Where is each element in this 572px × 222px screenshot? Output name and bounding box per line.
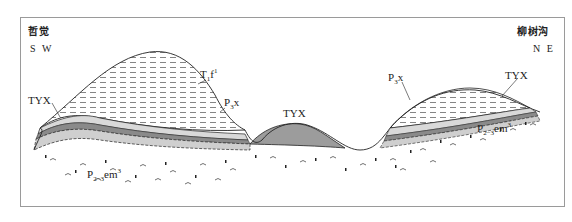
p3x-left-label: P3x (224, 97, 239, 111)
tyx-left-label: TYX (28, 95, 51, 106)
leader-p3x-right (402, 82, 410, 100)
p3x-right-label: P3x (388, 72, 403, 86)
p23em3-right-label: P2−3em3 (477, 122, 511, 137)
p23em3-left-sub: 2−3 (93, 175, 104, 183)
t1f1-label: T1f1 (200, 68, 217, 83)
left-place-label: 哲觉 (28, 27, 49, 37)
p23em3-right-sub: 2−3 (483, 129, 494, 137)
t1f1-sup: 1 (214, 67, 218, 75)
p23em3-left-sup: 3 (118, 167, 122, 175)
left-direction-label: S W (30, 44, 53, 54)
p23em3-left-label: P2−3em3 (87, 168, 121, 183)
tyx-middle-label: TYX (283, 108, 306, 119)
p23em3-right-sup: 3 (508, 121, 512, 129)
right-place-label: 柳树沟 (517, 27, 549, 37)
right-direction-label: N E (533, 44, 555, 54)
p23em3-right-mid: em (494, 122, 507, 134)
p3x-left-mid: x (234, 96, 240, 108)
p3x-right-mid: x (398, 71, 404, 83)
p23em3-left-mid: em (104, 168, 117, 180)
tyx-right-label: TYX (505, 70, 528, 81)
t1f1-base: T (200, 68, 207, 80)
middle-tyx-hill (250, 124, 345, 148)
